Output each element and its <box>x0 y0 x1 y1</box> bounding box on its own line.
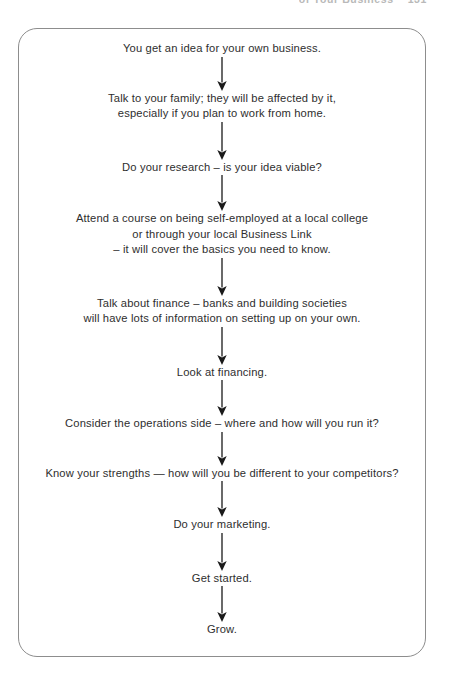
arrow-marketing-to-get-started-icon <box>213 533 231 571</box>
flow-step-idea: You get an idea for your own business. <box>123 41 321 57</box>
arrow-research-to-course-icon <box>213 175 231 211</box>
flow-step-operations: Consider the operations side – where and… <box>65 416 379 432</box>
arrow-finance-to-financing-icon <box>213 327 231 365</box>
flowchart-flow: You get an idea for your own business.Ta… <box>19 29 425 638</box>
flow-step-financing: Look at financing. <box>177 365 267 381</box>
flow-step-strengths: Know your strengths — how will you be di… <box>45 466 398 482</box>
arrow-family-to-research-icon <box>213 122 231 160</box>
flow-step-family: Talk to your family; they will be affect… <box>108 91 336 122</box>
arrow-idea-to-family-icon <box>213 57 231 91</box>
flow-step-get-started: Get started. <box>192 571 252 587</box>
flow-step-marketing: Do your marketing. <box>173 517 270 533</box>
flowchart-frame: You get an idea for your own business.Ta… <box>18 28 426 657</box>
flow-step-finance: Talk about finance – banks and building … <box>83 296 360 327</box>
flow-step-course: Attend a course on being self-employed a… <box>76 211 368 258</box>
running-head-title: of Your Business <box>299 0 394 5</box>
arrow-operations-to-strengths-icon <box>213 432 231 466</box>
running-head-page-number: 131 <box>408 0 427 5</box>
arrow-course-to-finance-icon <box>213 258 231 296</box>
flow-step-grow: Grow. <box>207 622 237 638</box>
arrow-get-started-to-grow-icon <box>213 586 231 622</box>
running-head: of Your Business 131 <box>299 0 427 5</box>
arrow-financing-to-operations-icon <box>213 380 231 416</box>
flow-step-research: Do your research – is your idea viable? <box>122 160 322 176</box>
arrow-strengths-to-marketing-icon <box>213 481 231 517</box>
